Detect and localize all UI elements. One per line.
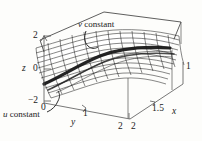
z-tick-neg2: −2 [28, 96, 38, 106]
z-axis-name: z [22, 64, 26, 74]
z-tick-0: 0 [33, 64, 38, 74]
v-constant-text: constant [82, 19, 114, 29]
z-tick-2: 2 [33, 31, 38, 41]
v-constant-label: v constant [78, 20, 114, 29]
y-axis-name: y [71, 118, 75, 128]
u-constant-label: u constant [3, 110, 40, 119]
y-tick-1: 1 [83, 109, 88, 119]
y-tick-2: 2 [118, 122, 123, 132]
surface-mesh [36, 30, 184, 98]
x-tick-2: 2 [131, 122, 136, 132]
x-tick-1: 1 [186, 62, 191, 72]
x-axis-name: x [172, 107, 176, 117]
u-constant-text: constant [8, 109, 40, 119]
y-tick-0: 0 [41, 103, 46, 113]
x-tick-1p5: 1.5 [152, 104, 164, 114]
